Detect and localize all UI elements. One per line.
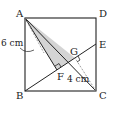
label-f: F xyxy=(57,71,64,82)
label-a: A xyxy=(15,8,24,19)
label-e: E xyxy=(99,39,106,50)
label-6cm: 6 cm xyxy=(1,38,24,48)
label-4cm: 4 cm xyxy=(67,74,90,84)
label-b: B xyxy=(16,90,23,101)
label-c: C xyxy=(99,90,107,101)
label-d: D xyxy=(99,8,107,19)
label-g: G xyxy=(70,46,78,57)
callout-6cm xyxy=(20,48,34,52)
geometry-diagram: A D E B C G F 6 cm 4 cm xyxy=(0,0,115,113)
